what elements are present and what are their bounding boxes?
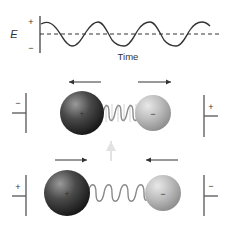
left-plate-sign: −: [15, 98, 20, 108]
molecule-stretch: − + − +: [12, 82, 218, 137]
field-graph: + − E Time: [10, 16, 221, 62]
small-atom-charge: −: [150, 109, 155, 119]
left-plate-sign: +: [15, 182, 20, 192]
time-axis-label: Time: [118, 51, 139, 62]
molecule-compress: + + − −: [12, 160, 218, 216]
right-plate-sign: +: [208, 102, 213, 112]
right-plate-sign: −: [208, 181, 213, 191]
ir-absorption-diagram: + − E Time − + − + + +: [0, 0, 230, 229]
plus-tick-label: +: [28, 17, 33, 27]
small-atom-charge: −: [160, 189, 165, 199]
spring-icon: [88, 185, 150, 202]
large-atom-charge: +: [64, 189, 69, 199]
minus-tick-label: −: [28, 43, 33, 53]
e-axis-label: E: [10, 28, 18, 40]
large-atom-charge: +: [79, 109, 84, 119]
